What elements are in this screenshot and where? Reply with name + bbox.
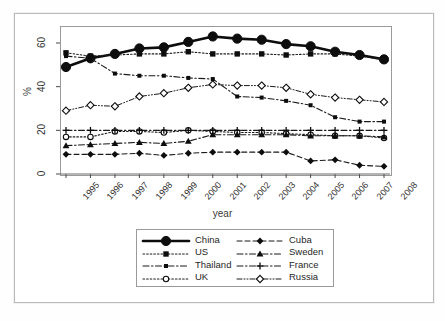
data-point-marker	[356, 162, 363, 169]
data-point-marker	[234, 82, 241, 89]
data-point-marker	[185, 150, 192, 157]
data-point-marker	[113, 72, 117, 76]
data-point-marker	[186, 76, 190, 80]
series-china	[61, 32, 388, 72]
y-axis-label: %	[22, 87, 33, 96]
legend-label: UK	[195, 272, 208, 282]
data-point-marker	[64, 54, 68, 58]
legend-label: Sweden	[289, 247, 323, 257]
data-point-marker	[235, 51, 240, 56]
data-point-marker	[185, 127, 192, 134]
series-russia	[62, 81, 387, 114]
data-point-marker	[307, 158, 314, 165]
legend-label: US	[195, 247, 208, 257]
data-point-marker	[63, 151, 70, 158]
data-point-marker	[87, 102, 94, 109]
data-point-marker	[160, 152, 167, 159]
legend-item-us[interactable]: US	[141, 246, 235, 259]
data-point-marker	[306, 42, 315, 51]
legend-item-china[interactable]: China	[141, 233, 235, 246]
data-point-marker	[282, 39, 291, 48]
legend-swatch-uk	[141, 271, 191, 283]
x-axis-label: year	[0, 208, 445, 219]
data-point-marker	[283, 149, 290, 156]
data-point-marker	[258, 82, 265, 89]
data-point-marker	[161, 237, 170, 246]
data-point-marker	[380, 98, 387, 105]
chart-figure: % year 0204060 1995199619971998199920002…	[0, 0, 445, 321]
legend-swatch-sweden	[235, 246, 285, 258]
data-point-marker	[235, 94, 239, 98]
data-point-marker	[137, 74, 141, 78]
legend-swatch-france	[235, 258, 285, 270]
legend-label: France	[289, 260, 319, 270]
axis-ticks	[56, 43, 390, 178]
data-point-marker	[62, 107, 69, 114]
legend-item-thailand[interactable]: Thailand	[141, 258, 235, 271]
data-point-marker	[333, 115, 337, 119]
data-point-marker	[88, 56, 92, 60]
data-point-marker	[88, 134, 93, 139]
data-point-marker	[185, 84, 192, 91]
data-point-marker	[111, 103, 118, 110]
data-point-marker	[136, 150, 143, 157]
legend-item-uk[interactable]: UK	[141, 271, 235, 284]
data-point-marker	[256, 275, 263, 282]
data-point-marker	[260, 96, 264, 100]
legend-swatch-russia	[235, 271, 285, 283]
data-point-marker	[63, 134, 68, 139]
data-point-marker	[257, 238, 264, 245]
data-point-marker	[87, 151, 94, 158]
data-point-marker	[208, 32, 217, 41]
y-tick-label: 20	[36, 119, 47, 141]
data-point-marker	[162, 74, 166, 78]
data-point-marker	[382, 120, 386, 124]
data-point-marker	[112, 151, 119, 158]
data-point-marker	[259, 51, 264, 56]
data-point-marker	[163, 251, 168, 256]
data-point-marker	[210, 51, 215, 56]
data-point-marker	[234, 149, 241, 156]
y-tick-label: 0	[36, 163, 47, 185]
legend-swatch-us	[141, 246, 191, 258]
chart-legend: ChinaCubaUSSwedenThailandFranceUKRussia	[136, 229, 334, 287]
data-point-marker	[381, 163, 388, 170]
data-point-marker	[186, 49, 191, 54]
y-tick-label: 60	[36, 32, 47, 54]
series-thailand	[64, 54, 386, 124]
data-point-marker	[87, 127, 94, 134]
data-point-marker	[381, 57, 386, 62]
legend-label: Russia	[289, 272, 318, 282]
data-point-marker	[332, 51, 337, 56]
data-point-marker	[161, 51, 166, 56]
data-point-marker	[209, 149, 216, 156]
data-point-marker	[332, 127, 339, 134]
y-tick-label: 40	[36, 75, 47, 97]
legend-label: Cuba	[289, 235, 312, 245]
legend-item-sweden[interactable]: Sweden	[235, 246, 329, 259]
data-point-marker	[307, 91, 314, 98]
data-point-marker	[257, 263, 264, 270]
series-france	[63, 127, 388, 134]
data-point-marker	[331, 94, 338, 101]
data-point-marker	[137, 51, 142, 56]
data-point-marker	[284, 99, 288, 103]
data-point-marker	[233, 34, 242, 43]
data-point-marker	[209, 81, 216, 88]
data-point-marker	[160, 90, 167, 97]
data-point-marker	[308, 51, 313, 56]
data-point-marker	[184, 37, 193, 46]
legend-swatch-china	[141, 233, 191, 245]
data-point-marker	[163, 276, 168, 281]
legend-label: China	[195, 235, 220, 245]
legend-item-france[interactable]: France	[235, 258, 329, 271]
data-point-marker	[136, 93, 143, 100]
legend-item-cuba[interactable]: Cuba	[235, 233, 329, 246]
data-point-marker	[257, 35, 266, 44]
data-point-marker	[356, 96, 363, 103]
legend-item-russia[interactable]: Russia	[235, 271, 329, 284]
data-point-marker	[381, 127, 388, 134]
series-cuba	[63, 149, 388, 170]
data-point-marker	[112, 52, 117, 57]
data-point-marker	[332, 156, 339, 163]
